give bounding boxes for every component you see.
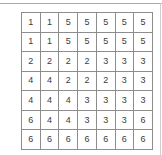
grid-cell[interactable]: 2 xyxy=(96,71,115,91)
grid-cell[interactable]: 3 xyxy=(115,52,134,72)
grid-cell[interactable]: 1 xyxy=(40,32,59,52)
grid-cell[interactable]: 5 xyxy=(78,13,97,33)
grid-cell[interactable]: 5 xyxy=(96,32,115,52)
grid-cell[interactable]: 6 xyxy=(96,130,115,150)
grid-row: 4443333 xyxy=(22,91,153,111)
grid-cell[interactable]: 2 xyxy=(59,71,78,91)
grid-row: 6666666 xyxy=(22,130,153,150)
grid-cell[interactable]: 5 xyxy=(59,13,78,33)
grid-cell[interactable]: 1 xyxy=(22,13,41,33)
grid-cell[interactable]: 3 xyxy=(134,91,153,111)
grid-cell[interactable]: 4 xyxy=(40,91,59,111)
grid-cell[interactable]: 3 xyxy=(96,110,115,130)
grid-cell[interactable]: 2 xyxy=(78,71,97,91)
number-grid-container: 1155555115555522223334422233444333364433… xyxy=(21,12,145,142)
grid-cell[interactable]: 3 xyxy=(96,91,115,111)
grid-cell[interactable]: 3 xyxy=(115,91,134,111)
grid-cell[interactable]: 3 xyxy=(115,71,134,91)
grid-cell[interactable]: 5 xyxy=(78,32,97,52)
grid-cell[interactable]: 2 xyxy=(22,52,41,72)
grid-cell[interactable]: 4 xyxy=(40,110,59,130)
grid-cell[interactable]: 4 xyxy=(40,71,59,91)
grid-cell[interactable]: 5 xyxy=(134,32,153,52)
grid-cell[interactable]: 1 xyxy=(40,13,59,33)
grid-cell[interactable]: 3 xyxy=(96,52,115,72)
number-grid-body: 1155555115555522223334422233444333364433… xyxy=(22,13,153,150)
grid-cell[interactable]: 2 xyxy=(40,52,59,72)
right-divider-rule xyxy=(160,3,161,155)
grid-row: 1155555 xyxy=(22,32,153,52)
grid-row: 4422233 xyxy=(22,71,153,91)
grid-cell[interactable]: 6 xyxy=(59,130,78,150)
grid-cell[interactable]: 6 xyxy=(115,130,134,150)
grid-cell[interactable]: 4 xyxy=(59,110,78,130)
grid-row: 2222333 xyxy=(22,52,153,72)
grid-cell[interactable]: 4 xyxy=(22,71,41,91)
grid-cell[interactable]: 5 xyxy=(96,13,115,33)
grid-cell[interactable]: 6 xyxy=(22,110,41,130)
grid-cell[interactable]: 3 xyxy=(115,110,134,130)
grid-row: 1155555 xyxy=(22,13,153,33)
number-grid: 1155555115555522223334422233444333364433… xyxy=(21,12,153,150)
top-divider-rule xyxy=(0,3,162,4)
grid-cell[interactable]: 1 xyxy=(22,32,41,52)
grid-cell[interactable]: 6 xyxy=(40,130,59,150)
grid-cell[interactable]: 6 xyxy=(134,130,153,150)
screenshot-canvas: 1155555115555522223334422233444333364433… xyxy=(0,0,162,155)
grid-cell[interactable]: 3 xyxy=(78,110,97,130)
grid-cell[interactable]: 2 xyxy=(78,52,97,72)
grid-cell[interactable]: 5 xyxy=(59,32,78,52)
grid-cell[interactable]: 6 xyxy=(78,130,97,150)
grid-cell[interactable]: 4 xyxy=(22,91,41,111)
grid-cell[interactable]: 6 xyxy=(134,110,153,130)
grid-cell[interactable]: 4 xyxy=(59,91,78,111)
grid-cell[interactable]: 3 xyxy=(78,91,97,111)
grid-cell[interactable]: 2 xyxy=(59,52,78,72)
grid-cell[interactable]: 5 xyxy=(134,13,153,33)
grid-row: 6443336 xyxy=(22,110,153,130)
grid-cell[interactable]: 5 xyxy=(115,32,134,52)
grid-cell[interactable]: 6 xyxy=(22,130,41,150)
grid-cell[interactable]: 3 xyxy=(134,71,153,91)
grid-cell[interactable]: 3 xyxy=(134,52,153,72)
grid-cell[interactable]: 5 xyxy=(115,13,134,33)
